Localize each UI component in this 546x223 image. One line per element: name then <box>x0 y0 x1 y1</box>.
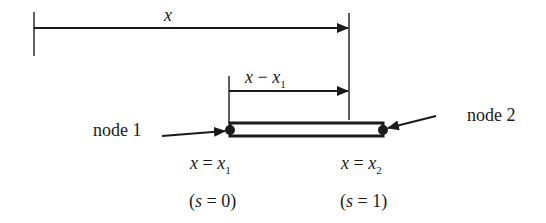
node1-label: node 1 <box>93 121 142 139</box>
node2-label: node 2 <box>467 106 516 124</box>
x-label: x <box>164 6 172 24</box>
x-var: x <box>245 67 253 87</box>
equals: = <box>198 153 217 173</box>
node1-pointer-arrow <box>162 131 225 136</box>
minus-sign: − <box>253 67 272 87</box>
s-value: = 0) <box>202 191 236 211</box>
lhs-x: x <box>341 153 349 173</box>
node1-dot <box>225 125 235 135</box>
s-var: s <box>346 191 353 211</box>
bar-element <box>230 123 383 136</box>
x-minus-x1-label: x − x1 <box>245 68 286 90</box>
x1-subscript: 1 <box>280 78 286 90</box>
equals: = <box>349 153 368 173</box>
left-end-position: x = x1 <box>190 154 231 176</box>
left-end-parameter: (s = 0) <box>189 192 236 210</box>
subscript: 2 <box>376 164 382 176</box>
s-value: = 1) <box>353 191 387 211</box>
right-end-position: x = x2 <box>341 154 382 176</box>
lhs-x: x <box>190 153 198 173</box>
x1-var: x <box>272 67 280 87</box>
rhs-x: x <box>368 153 376 173</box>
right-end-parameter: (s = 1) <box>340 192 387 210</box>
rhs-x: x <box>217 153 225 173</box>
s-var: s <box>195 191 202 211</box>
node2-pointer-arrow <box>388 116 436 128</box>
subscript: 1 <box>225 164 231 176</box>
node2-dot <box>378 125 388 135</box>
element-diagram <box>0 0 546 223</box>
